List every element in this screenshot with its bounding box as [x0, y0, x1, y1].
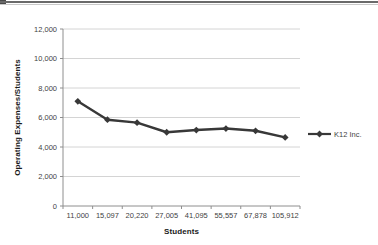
x-axis-title: Students — [63, 227, 300, 236]
y-tick-label: 0 — [53, 202, 57, 211]
series-marker — [223, 125, 230, 132]
y-tick-label: 8,000 — [38, 84, 57, 93]
y-tick-label: 10,000 — [34, 54, 57, 63]
y-tick-label: 12,000 — [34, 25, 57, 34]
line-chart: 02,0004,0006,0008,00010,00012,00011,0001… — [0, 0, 378, 245]
x-tick-label: 41,095 — [185, 211, 208, 220]
series-marker — [252, 127, 259, 134]
x-tick-label: 27,005 — [155, 211, 178, 220]
series-marker — [163, 129, 170, 136]
chart-page: 02,0004,0006,0008,00010,00012,00011,0001… — [0, 0, 378, 245]
x-tick-label: 105,912 — [272, 211, 299, 220]
y-tick-label: 4,000 — [38, 143, 57, 152]
y-axis-title: Operating Expenses/Students — [12, 38, 23, 198]
series-marker — [193, 127, 200, 134]
x-tick-label: 67,878 — [244, 211, 267, 220]
x-tick-label: 20,220 — [126, 211, 149, 220]
legend-label: K12 Inc. — [334, 130, 362, 139]
x-tick-label: 15,097 — [96, 211, 119, 220]
x-tick-label: 55,557 — [214, 211, 237, 220]
series-marker — [282, 134, 289, 141]
y-tick-label: 2,000 — [38, 172, 57, 181]
y-tick-label: 6,000 — [38, 113, 57, 122]
legend-marker-diamond — [316, 131, 323, 138]
series-marker — [134, 119, 141, 126]
x-tick-label: 11,000 — [67, 211, 89, 220]
